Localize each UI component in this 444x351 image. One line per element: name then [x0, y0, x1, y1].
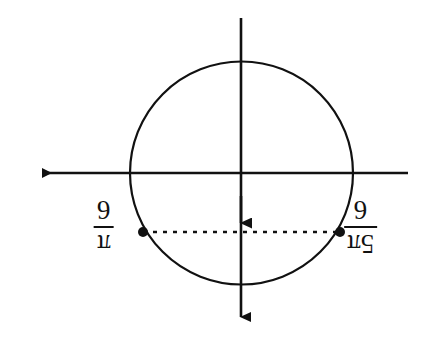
unit-circle-diagram [0, 0, 444, 351]
figure-canvas: π 6 5π 6 [0, 0, 444, 351]
fraction-left: π 6 [94, 196, 114, 257]
fraction-right: 5π 6 [344, 196, 377, 257]
angle-label-right: 5π 6 [344, 196, 377, 257]
angle-label-left: π 6 [94, 196, 114, 257]
fraction-left-denominator: 6 [94, 196, 114, 224]
fraction-left-bar [94, 226, 114, 228]
fraction-right-denominator: 6 [344, 196, 377, 224]
fraction-right-bar [344, 226, 377, 228]
fraction-left-numerator: π [94, 229, 114, 257]
left-point-marker [138, 227, 148, 237]
fraction-right-numerator: 5π [344, 229, 377, 257]
